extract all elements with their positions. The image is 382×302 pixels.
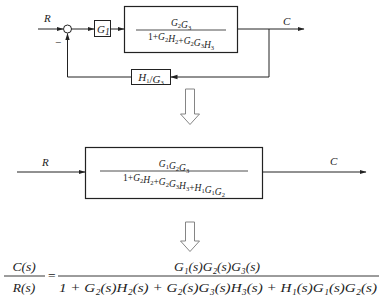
formula-lhs-numerator: C(s) xyxy=(12,259,36,274)
formula-rhs-numerator: G₁(s)G₂(s)G₃(s) xyxy=(174,259,261,274)
block-diagram-canvas: R − G1 G2G3 1+G2H2+G2G3H3 C H1/G3 R G1G2… xyxy=(0,0,382,302)
down-arrow-icon xyxy=(181,222,200,252)
simplified-block-diagram: R G1G2G3 1+G2H2+G2G3H3+H1G1G2 C xyxy=(17,148,366,199)
output-label-c: C xyxy=(283,15,291,27)
feedback-line-to-junction xyxy=(68,34,132,78)
down-arrow-icon xyxy=(181,89,200,125)
output-label-c: C xyxy=(330,155,338,167)
input-label-r: R xyxy=(43,12,51,24)
formula-lhs-denominator: R(s) xyxy=(12,280,36,295)
formula-equals: = xyxy=(48,268,56,283)
transfer-function-formula: C(s) R(s) = G₁(s)G₂(s)G₃(s) 1 + G₂(s)H₂(… xyxy=(4,259,379,295)
summing-junction xyxy=(64,25,72,33)
original-block-diagram: R − G1 G2G3 1+G2H2+G2G3H3 C H1/G3 xyxy=(38,7,304,87)
equivalent-block xyxy=(86,148,263,199)
formula-rhs-denominator: 1 + G₂(s)H₂(s) + G₂(s)G₃(s)H₃(s) + H₁(s)… xyxy=(59,280,378,295)
input-label-r: R xyxy=(41,156,49,168)
minus-sign: − xyxy=(55,36,61,48)
